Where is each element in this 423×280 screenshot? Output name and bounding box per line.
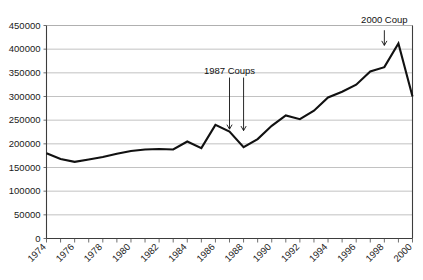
annotation-label-coups-1987: 1987 Coups — [204, 65, 255, 76]
y-tick-label: 200000 — [9, 138, 41, 149]
y-tick-label: 350000 — [9, 67, 41, 78]
annotation-label-coup-2000: 2000 Coup — [361, 14, 407, 25]
y-tick-label: 250000 — [9, 114, 41, 125]
line-chart: 0500001000001500002000002500003000003500… — [0, 0, 423, 280]
y-tick-label: 450000 — [9, 20, 41, 31]
chart-canvas: 0500001000001500002000002500003000003500… — [0, 0, 423, 280]
y-tick-label: 300000 — [9, 91, 41, 102]
y-tick-label: 400000 — [9, 43, 41, 54]
y-tick-label: 100000 — [9, 185, 41, 196]
y-tick-label: 50000 — [14, 209, 40, 220]
y-tick-label: 150000 — [9, 162, 41, 173]
